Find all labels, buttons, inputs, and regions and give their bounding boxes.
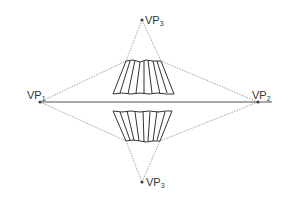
perspective-diagram: VP1 VP2 VP3 VP3 <box>0 0 290 201</box>
upper-folded-object <box>113 60 174 94</box>
vp3-top-point <box>140 18 143 21</box>
lower-folded-object <box>113 111 172 142</box>
vanishing-points <box>38 18 259 183</box>
construction-lines <box>40 20 258 182</box>
vp2-label: VP2 <box>252 89 271 102</box>
vp3-bottom-label: VP3 <box>146 176 165 189</box>
vp3-top-label: VP3 <box>145 14 164 27</box>
vp1-label: VP1 <box>27 89 46 102</box>
vp3-bottom-point <box>140 180 143 183</box>
